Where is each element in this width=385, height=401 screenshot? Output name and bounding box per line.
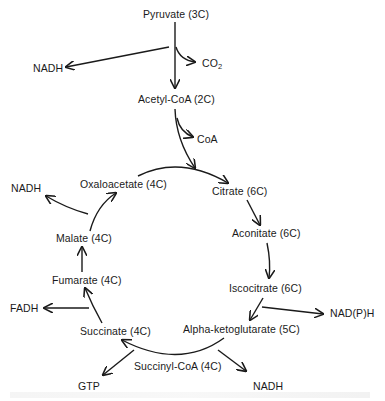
arrow-to-nadh-left	[46, 196, 88, 214]
arrow-to-nadph	[262, 307, 323, 314]
arrow-succinate-to-fumarate	[85, 288, 102, 323]
node-alpha-ketoglutarate: Alpha-ketoglutarate (5C)	[183, 323, 300, 335]
byproduct-nadh-pyruvate: NADH	[33, 62, 63, 74]
node-pyruvate: Pyruvate (3C)	[143, 8, 209, 20]
byproduct-nadh-malate: NADH	[11, 182, 41, 194]
node-succinyl-coa: Succinyl-CoA (4C)	[134, 360, 221, 372]
arrow-akg-to-succinate	[122, 338, 224, 355]
pathway-arrows	[0, 0, 385, 401]
node-acetyl-coa: Acetyl-CoA (2C)	[138, 93, 215, 105]
co2-text: CO	[202, 57, 218, 69]
byproduct-gtp: GTP	[78, 380, 100, 392]
arrow-iscocitrate-to-akg	[250, 298, 263, 320]
arrow-to-co2	[176, 47, 195, 62]
cropped-caption	[10, 392, 370, 398]
arrow-to-nadh-top	[66, 47, 169, 67]
arrow-aconitate-to-iscocitrate	[267, 243, 270, 278]
node-iscocitrate: Iscocitrate (6C)	[229, 282, 302, 294]
node-succinate: Succinate (4C)	[80, 325, 151, 337]
co2-subscript: 2	[218, 62, 222, 71]
arrow-malate-to-oxaloacetate	[90, 193, 116, 231]
arrow-to-nadh-bottom	[218, 350, 246, 371]
byproduct-co2: CO2	[202, 57, 222, 73]
arrow-acetylcoa-to-citrate	[175, 109, 195, 168]
node-malate: Malate (4C)	[56, 232, 112, 244]
byproduct-nadph: NAD(P)H	[330, 307, 374, 319]
byproduct-fadh: FADH	[10, 302, 38, 314]
arrow-citrate-to-aconitate	[247, 200, 260, 225]
node-fumarate: Fumarate (4C)	[52, 274, 122, 286]
byproduct-coa: CoA	[197, 133, 218, 145]
node-aconitate: Aconitate (6C)	[232, 227, 301, 239]
arrow-to-gtp	[103, 350, 134, 375]
node-oxaloacetate: Oxaloacetate (4C)	[80, 178, 167, 190]
krebs-cycle-diagram: Pyruvate (3C) Acetyl-CoA (2C) Citrate (6…	[0, 0, 385, 401]
node-citrate: Citrate (6C)	[212, 185, 267, 197]
byproduct-nadh-akg: NADH	[253, 380, 283, 392]
